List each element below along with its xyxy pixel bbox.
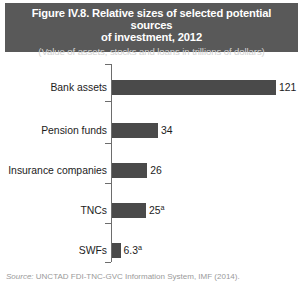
- bar-category-label: Bank assets: [50, 80, 107, 95]
- bar-category-label: TNCs: [80, 203, 107, 218]
- bar-category-label: Pension funds: [41, 123, 107, 138]
- bar-row: Insurance companies26: [0, 163, 303, 178]
- source-note: Source: UNCTAD FDI-TNC-GVC Information S…: [6, 272, 302, 282]
- bar-rect: [112, 80, 276, 95]
- figure-title-line-2: of investment, 2012: [11, 31, 292, 43]
- bar-category-label: Insurance companies: [8, 163, 107, 178]
- bar-value-footnote-marker: a: [160, 203, 164, 212]
- axis-tick-1: [105, 101, 111, 102]
- figure-title: Figure IV.8. Relative sizes of selected …: [11, 7, 292, 44]
- bar-row: TNCs25a: [0, 203, 303, 218]
- bar-rect: [112, 163, 147, 178]
- bar-value-label: 6.3a: [124, 243, 142, 258]
- bar-rect: [112, 243, 121, 258]
- bar-value-label: 25a: [149, 203, 165, 218]
- bar-chart-plot-area: Bank assets121Pension funds34Insurance c…: [0, 55, 303, 267]
- bar-value-label: 26: [150, 163, 162, 178]
- bar-row: Pension funds34: [0, 123, 303, 138]
- bar-value-label: 121: [279, 80, 296, 95]
- axis-tick-5: [105, 262, 111, 263]
- bar-category-label: SWFs: [79, 243, 107, 258]
- axis-tick-3: [105, 183, 111, 184]
- bar-value-footnote-marker: a: [138, 243, 142, 252]
- bar-row: SWFs6.3a: [0, 243, 303, 258]
- axis-tick-0: [105, 64, 111, 65]
- axis-tick-4: [105, 223, 111, 224]
- figure-title-banner: Figure IV.8. Relative sizes of selected …: [5, 3, 298, 52]
- axis-tick-2: [105, 143, 111, 144]
- source-text: UNCTAD FDI-TNC-GVC Information System, I…: [36, 272, 240, 281]
- bar-row: Bank assets121: [0, 80, 303, 95]
- figure-title-line-1: Figure IV.8. Relative sizes of selected …: [11, 7, 292, 31]
- bar-rect: [112, 203, 146, 218]
- bar-rect: [112, 123, 158, 138]
- source-label: Source:: [6, 272, 34, 281]
- bar-value-label: 34: [161, 123, 173, 138]
